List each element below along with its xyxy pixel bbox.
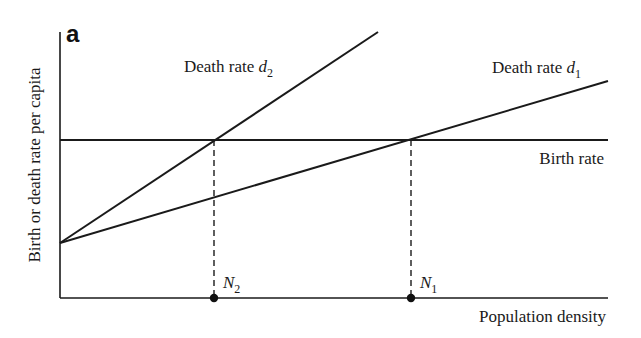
n1-label: N1 <box>419 273 437 296</box>
y-axis-label: Birth or death rate per capita <box>25 67 44 262</box>
death-rate-d2-label: Death rate d2 <box>184 57 273 80</box>
birth-rate-label: Birth rate <box>539 149 604 168</box>
n2-point <box>210 294 218 302</box>
n2-label: N2 <box>222 273 240 296</box>
population-regulation-diagram: a Birth or death rate per capita Populat… <box>0 0 641 338</box>
n1-point <box>407 294 415 302</box>
death-rate-d1-line <box>60 81 608 243</box>
death-rate-d1-label: Death rate d1 <box>492 58 581 81</box>
x-axis-label: Population density <box>479 307 607 326</box>
panel-label: a <box>66 20 80 47</box>
